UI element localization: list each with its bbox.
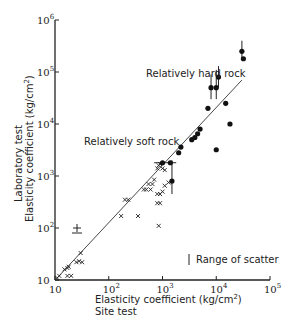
scatter-chart: 1010210310410510102103104105106 Relative… bbox=[0, 0, 292, 331]
cross-marker-icon bbox=[144, 188, 148, 192]
y-tick-label: 10 bbox=[37, 275, 50, 286]
x-tick-label: 105 bbox=[264, 282, 281, 295]
annotation-label: Relatively soft rock bbox=[84, 136, 179, 147]
filled-circle-marker-icon bbox=[160, 160, 165, 165]
cross-marker-icon bbox=[80, 260, 84, 264]
y-axis-subtitle: Laboratory test bbox=[13, 125, 24, 202]
legend: Range of scatter bbox=[189, 254, 280, 265]
filled-circle-marker-icon bbox=[214, 147, 219, 152]
y-tick-label: 103 bbox=[37, 169, 54, 182]
cross-marker-icon bbox=[152, 178, 156, 182]
annotations: Relatively hard rockRelatively soft rock bbox=[84, 68, 246, 147]
reference-line bbox=[57, 80, 242, 278]
filled-circle-marker-icon bbox=[197, 126, 202, 131]
filled-circle-marker-icon bbox=[223, 101, 228, 106]
cross-marker-icon bbox=[157, 224, 161, 228]
cross-marker-icon bbox=[158, 192, 162, 196]
cross-marker-icon bbox=[57, 274, 61, 278]
legend-label: Range of scatter bbox=[196, 254, 280, 265]
cross-marker-icon bbox=[149, 188, 153, 192]
cross-marker-icon bbox=[136, 214, 140, 218]
y-tick-label: 104 bbox=[37, 117, 55, 130]
filled-circle-marker-icon bbox=[214, 85, 219, 90]
filled-circle-marker-icon bbox=[241, 56, 246, 61]
y-tick-label: 102 bbox=[37, 221, 54, 234]
filled-circle-marker-icon bbox=[208, 85, 213, 90]
cross-marker-icon bbox=[79, 251, 83, 255]
filled-circle-marker-icon bbox=[168, 160, 173, 165]
cross-marker-icon bbox=[163, 184, 167, 188]
axes: 1010210310410510102103104105106 bbox=[37, 13, 281, 295]
y-axis-title: Elasticity coefficient (kg/cm2) bbox=[23, 75, 35, 222]
cross-marker-icon bbox=[119, 214, 123, 218]
filled-circle-marker-icon bbox=[227, 121, 232, 126]
cross-marker-icon bbox=[150, 182, 154, 186]
x-axis-subtitle: Site test bbox=[95, 306, 137, 317]
cross-marker-icon bbox=[158, 201, 162, 205]
cross-marker-icon bbox=[147, 182, 151, 186]
x-tick-label: 10 bbox=[49, 284, 62, 295]
cross-marker-icon bbox=[69, 274, 73, 278]
x-axis-title: Elasticity coefficient (kg/cm2) bbox=[95, 293, 242, 305]
cross-marker-icon bbox=[65, 274, 69, 278]
y-tick-label: 106 bbox=[37, 13, 55, 26]
filled-circle-marker-icon bbox=[205, 106, 210, 111]
y-tick-label: 105 bbox=[37, 65, 54, 78]
cross-marker-icon bbox=[163, 168, 167, 172]
plus-minus-marker-icon bbox=[72, 224, 82, 233]
annotation-label: Relatively hard rock bbox=[146, 68, 246, 79]
filled-circle-marker-icon bbox=[169, 178, 174, 183]
filled-circle-marker-icon bbox=[195, 131, 200, 136]
filled-circle-marker-icon bbox=[176, 150, 181, 155]
filled-circle-marker-icon bbox=[239, 49, 244, 54]
